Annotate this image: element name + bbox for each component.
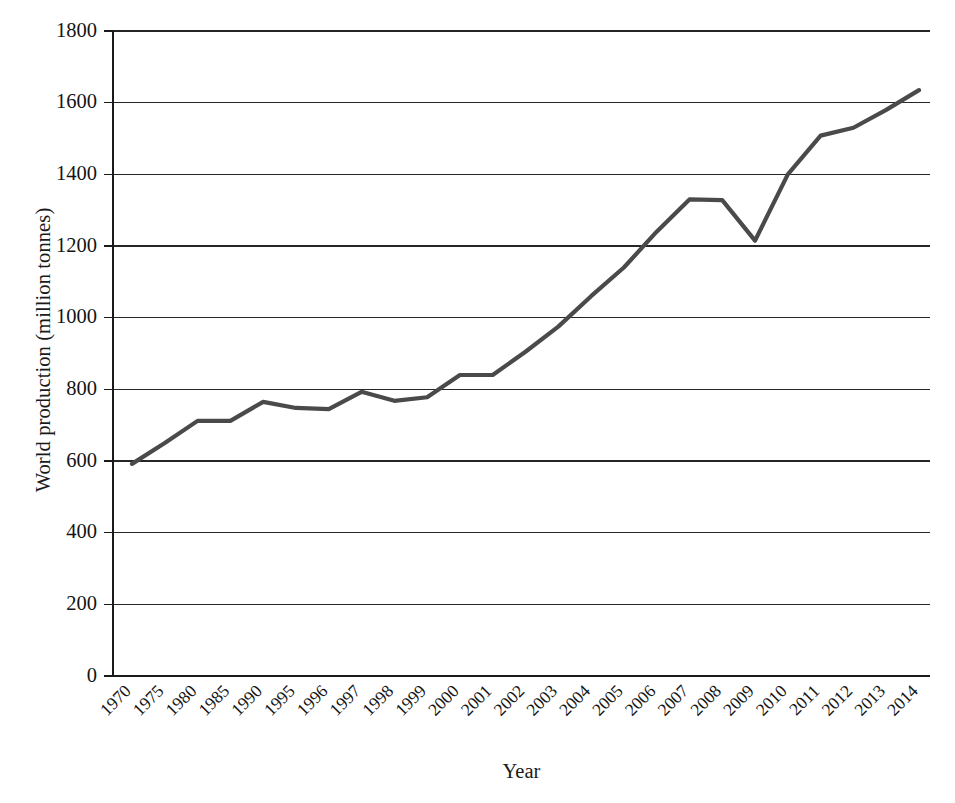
x-tick-label: 1985 <box>194 681 233 720</box>
x-tick-label: 2006 <box>621 681 660 720</box>
x-tick-label: 2005 <box>588 681 627 720</box>
x-tick-label: 1970 <box>96 681 135 720</box>
x-tick-label: 1995 <box>260 681 299 720</box>
x-tick-label: 1980 <box>162 681 201 720</box>
y-axis-tick-labels: 020040060080010001200140016001800 <box>56 19 97 686</box>
x-tick-label: 2001 <box>457 681 496 720</box>
x-tick-label: 1997 <box>325 681 364 720</box>
plot-area: 020040060080010001200140016001800 197019… <box>0 0 955 803</box>
x-tick-label: 2007 <box>653 681 692 720</box>
x-tick-label: 2010 <box>752 681 791 720</box>
data-line-world-production <box>132 90 919 464</box>
y-tick-label: 600 <box>66 449 97 471</box>
y-tick-label: 1600 <box>56 90 97 112</box>
line-chart: World production (million tonnes) Year 0… <box>0 0 955 803</box>
x-tick-label: 2003 <box>522 681 561 720</box>
y-tick-label: 200 <box>66 592 97 614</box>
axis-tickmarks <box>104 31 113 676</box>
y-tick-label: 1400 <box>56 162 97 184</box>
x-tick-label: 2002 <box>489 681 528 720</box>
x-tick-label: 2013 <box>850 681 889 720</box>
x-tick-label: 2004 <box>555 681 594 720</box>
x-tick-label: 2008 <box>686 681 725 720</box>
y-tick-label: 1000 <box>56 305 97 327</box>
x-tick-label: 1998 <box>358 681 397 720</box>
y-tick-label: 1800 <box>56 19 97 41</box>
x-tick-label: 1996 <box>293 681 332 720</box>
y-tick-label: 800 <box>66 377 97 399</box>
y-tick-label: 1200 <box>56 234 97 256</box>
x-tick-label: 2012 <box>817 681 856 720</box>
x-tick-label: 2000 <box>424 681 463 720</box>
x-tick-label: 1990 <box>227 681 266 720</box>
x-axis-tick-labels: 1970197519801985199019951996199719981999… <box>96 681 922 720</box>
y-tick-label: 400 <box>66 520 97 542</box>
y-tick-label: 0 <box>87 664 97 686</box>
data-series <box>132 90 919 464</box>
x-tick-label: 2014 <box>883 681 922 720</box>
x-tick-label: 2011 <box>785 681 823 719</box>
x-tick-label: 1999 <box>391 681 430 720</box>
x-tick-label: 1975 <box>129 681 168 720</box>
x-tick-label: 2009 <box>719 681 758 720</box>
